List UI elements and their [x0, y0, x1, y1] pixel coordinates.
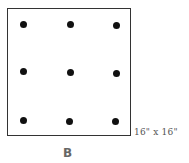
grid-dot	[113, 22, 120, 29]
grid-dot	[112, 118, 119, 125]
grid-dot	[67, 21, 74, 28]
grid-dot	[67, 69, 74, 76]
grid-dot	[113, 70, 120, 77]
grid-dot	[20, 68, 27, 75]
figure-label: B	[63, 146, 72, 160]
grid-dot	[20, 117, 27, 124]
dimension-label: 16" x 16"	[134, 127, 178, 137]
grid-dot	[66, 118, 73, 125]
grid-dot	[20, 21, 27, 28]
